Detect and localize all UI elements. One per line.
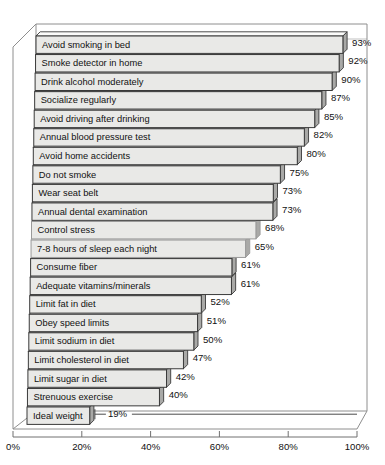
bar-category-label: Control stress: [38, 225, 96, 235]
bar-category-label: Consume fiber: [37, 262, 97, 272]
bar-value-label: 52%: [211, 296, 231, 307]
bar-top-face: [36, 32, 347, 36]
bar-category-label: Wear seat belt: [38, 188, 98, 198]
bar-side-face: [343, 32, 347, 54]
x-tick-label: 100%: [345, 441, 370, 452]
chart-canvas: Ideal weight19%Strenuous exercise40%Limi…: [0, 0, 385, 465]
bar-category-label: Obey speed limits: [35, 318, 109, 328]
bar-value-label: 73%: [283, 185, 303, 196]
bar-value-label: 85%: [324, 111, 344, 122]
bar-value-label: 68%: [265, 222, 285, 233]
bar-category-label: Socialize regularly: [41, 95, 117, 105]
bar-category-label: Limit sodium in diet: [35, 336, 115, 346]
x-tick-label: 80%: [279, 441, 299, 452]
bar-category-label: Ideal weight: [33, 411, 83, 421]
bar-category-label: Smoke detector in home: [42, 58, 143, 68]
bar-value-label: 51%: [207, 315, 227, 326]
bar-value-label: 75%: [290, 167, 310, 178]
bar-category-label: 7-8 hours of sleep each night: [37, 244, 157, 254]
bar-value-label: 87%: [331, 92, 351, 103]
x-axis: 0%20%40%60%80%100%: [6, 431, 370, 452]
x-tick-label: 40%: [141, 441, 161, 452]
bar-group: Avoid smoking in bed93%: [36, 32, 372, 54]
bars-layer: Ideal weight19%Strenuous exercise40%Limi…: [27, 32, 372, 425]
bar-category-label: Adequate vitamins/minerals: [36, 281, 151, 291]
bar-value-label: 65%: [255, 241, 275, 252]
bar-category-label: Limit sugar in diet: [34, 374, 107, 384]
bar-category-label: Avoid driving after drinking: [40, 114, 149, 124]
bar-value-label: 82%: [314, 129, 334, 140]
bar-value-label: 42%: [176, 371, 196, 382]
bar-category-label: Strenuous exercise: [33, 392, 113, 402]
bar-value-label: 61%: [241, 278, 261, 289]
bar-category-label: Drink alcohol moderately: [41, 77, 144, 87]
bar-value-label: 47%: [193, 352, 213, 363]
bar-value-label: 50%: [203, 334, 223, 345]
bar-category-label: Avoid home accidents: [39, 151, 130, 161]
bar-category-label: Do not smoke: [39, 170, 96, 180]
bar-value-label: 73%: [282, 204, 302, 215]
bar-value-label: 90%: [341, 74, 361, 85]
bar-category-label: Annual blood pressure test: [40, 132, 151, 142]
bar-category-label: Limit fat in diet: [36, 299, 96, 309]
bar-category-label: Annual dental examination: [38, 207, 148, 217]
bar-value-label: 61%: [241, 259, 261, 270]
bar-category-label: Limit cholesterol in diet: [34, 355, 129, 365]
bar-value-label: 93%: [352, 37, 372, 48]
x-axis-ticks: 0%20%40%60%80%100%: [6, 431, 370, 452]
bar-chart: Ideal weight19%Strenuous exercise40%Limi…: [0, 0, 385, 465]
x-tick-label: 0%: [6, 441, 20, 452]
x-tick-label: 20%: [72, 441, 92, 452]
x-tick-label: 60%: [210, 441, 230, 452]
bar-value-label: 19%: [108, 408, 128, 419]
bar-category-label: Avoid smoking in bed: [42, 40, 130, 50]
bar-value-label: 40%: [169, 389, 189, 400]
bar-value-label: 80%: [307, 148, 327, 159]
bar-value-label: 92%: [348, 55, 368, 66]
